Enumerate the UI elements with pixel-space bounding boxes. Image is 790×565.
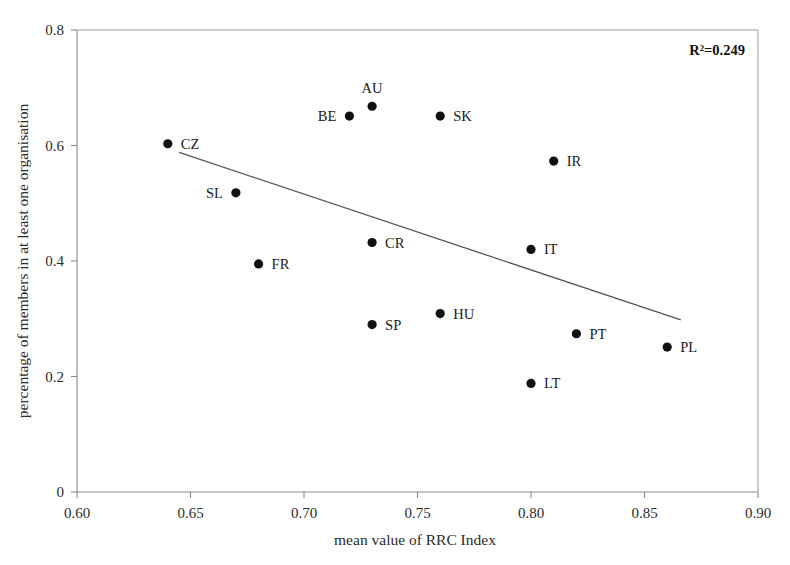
x-axis-ticks: 0.600.650.700.750.800.850.90 — [64, 492, 771, 521]
y-tick-label: 0.6 — [45, 138, 64, 154]
data-point-pl[interactable] — [663, 342, 672, 351]
point-label-sk: SK — [453, 108, 472, 124]
x-tick-label: 0.75 — [404, 505, 430, 521]
data-point-ir[interactable] — [549, 156, 558, 165]
regression-trendline — [179, 152, 681, 319]
r-squared-annotation: R²=0.249 — [689, 42, 745, 58]
point-label-it: IT — [544, 241, 558, 257]
data-point-cr[interactable] — [368, 238, 377, 247]
point-label-sl: SL — [206, 185, 223, 201]
data-point-au[interactable] — [368, 102, 377, 111]
x-tick-label: 0.65 — [177, 505, 203, 521]
data-point-cz[interactable] — [163, 139, 172, 148]
point-label-cr: CR — [385, 235, 405, 251]
point-label-au: AU — [362, 80, 383, 96]
point-label-ir: IR — [567, 153, 582, 169]
chart-canvas: 0.600.650.700.750.800.850.90 00.20.40.60… — [0, 0, 790, 565]
point-label-sp: SP — [385, 317, 401, 333]
point-label-fr: FR — [272, 256, 290, 272]
trendline — [179, 152, 681, 319]
point-label-pl: PL — [680, 339, 697, 355]
point-label-be: BE — [318, 108, 337, 124]
y-axis-ticks: 00.20.40.60.8 — [45, 22, 77, 500]
data-point-lt[interactable] — [526, 379, 535, 388]
data-point-it[interactable] — [526, 245, 535, 254]
data-point-sk[interactable] — [436, 111, 445, 120]
data-point-be[interactable] — [345, 111, 354, 120]
data-point-hu[interactable] — [436, 309, 445, 318]
point-label-hu: HU — [453, 306, 474, 322]
data-point-pt[interactable] — [572, 329, 581, 338]
y-tick-label: 0.8 — [45, 22, 64, 38]
point-label-lt: LT — [544, 375, 561, 391]
y-tick-label: 0 — [57, 484, 65, 500]
data-point-sl[interactable] — [231, 188, 240, 197]
x-tick-label: 0.70 — [291, 505, 317, 521]
x-tick-label: 0.90 — [745, 505, 771, 521]
x-tick-label: 0.60 — [64, 505, 90, 521]
data-point-sp[interactable] — [368, 320, 377, 329]
point-label-pt: PT — [589, 326, 606, 342]
scatter-plot-figure: 0.600.650.700.750.800.850.90 00.20.40.60… — [0, 0, 790, 565]
x-tick-label: 0.85 — [631, 505, 657, 521]
y-axis-title: percentage of members in at least one or… — [14, 104, 31, 419]
x-tick-label: 0.80 — [518, 505, 544, 521]
plot-frame — [77, 30, 758, 492]
y-tick-label: 0.4 — [45, 253, 64, 269]
x-axis-title: mean value of RRC Index — [334, 531, 496, 548]
data-point-fr[interactable] — [254, 259, 263, 268]
y-tick-label: 0.2 — [45, 369, 64, 385]
point-label-cz: CZ — [181, 136, 200, 152]
